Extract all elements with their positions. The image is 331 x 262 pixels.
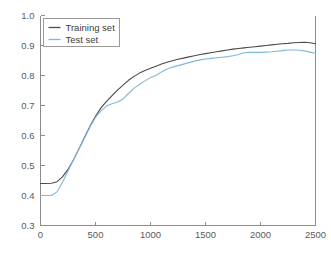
x-tick-label: 2500	[305, 229, 326, 240]
y-tick-label: 1.0	[21, 10, 34, 21]
legend-label-training-set: Training set	[66, 22, 116, 33]
y-axis-ticks: 0.30.40.50.60.70.80.91.0	[21, 10, 44, 231]
y-tick-label: 0.9	[21, 40, 34, 51]
line-chart: 0.30.40.50.60.70.80.91.0 050010001500200…	[0, 0, 331, 262]
chart-figure: 0.30.40.50.60.70.80.91.0 050010001500200…	[0, 0, 331, 262]
series-lines	[41, 42, 316, 195]
series-line-training-set	[41, 42, 316, 183]
y-tick-label: 0.7	[21, 100, 34, 111]
chart-legend: Training setTest set	[44, 19, 120, 47]
x-tick-label: 0	[38, 229, 43, 240]
x-tick-label: 2000	[250, 229, 271, 240]
x-tick-label: 1500	[195, 229, 216, 240]
y-tick-label: 0.5	[21, 160, 34, 171]
series-line-test-set	[41, 50, 316, 196]
x-tick-label: 1000	[140, 229, 161, 240]
y-tick-label: 0.3	[21, 220, 34, 231]
x-tick-label: 500	[88, 229, 104, 240]
y-tick-label: 0.8	[21, 70, 34, 81]
x-axis-ticks: 05001000150020002500	[38, 222, 326, 240]
legend-label-test-set: Test set	[66, 34, 99, 45]
y-tick-label: 0.6	[21, 130, 34, 141]
y-tick-label: 0.4	[21, 190, 34, 201]
